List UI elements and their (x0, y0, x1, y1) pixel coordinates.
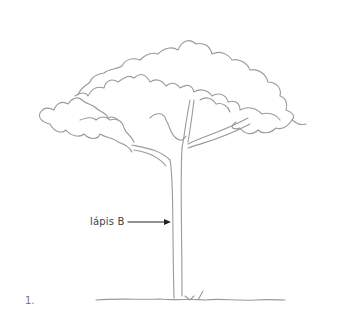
tree-sketch (0, 0, 342, 324)
canopy-middle-layer (75, 75, 280, 120)
branch-left (132, 145, 170, 166)
arrow-head-icon (164, 219, 171, 225)
canopy-right-lobe (232, 120, 306, 134)
pencil-grade-label: lápis B (90, 216, 125, 227)
ground-line (96, 291, 285, 300)
trunk (170, 148, 182, 298)
figure-number: 1. (25, 295, 35, 306)
canopy-left-lobe (39, 98, 132, 152)
